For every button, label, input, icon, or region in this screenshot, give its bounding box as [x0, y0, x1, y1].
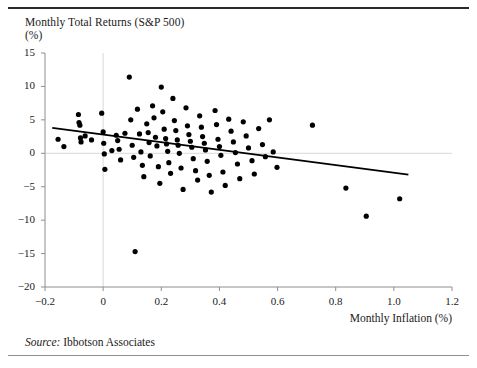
source-note: Source: Ibbotson Associates	[25, 336, 155, 348]
source-prefix: Source:	[25, 336, 60, 348]
y-tick-label: 0	[5, 147, 35, 158]
x-tick-label: 0.4	[199, 296, 239, 307]
y-tick-label: 5	[5, 114, 35, 125]
x-tick-label: −0.2	[25, 296, 65, 307]
y-tick-label: 15	[5, 47, 35, 58]
x-tick-label: 0	[83, 296, 123, 307]
y-tick-label: −5	[5, 181, 35, 192]
x-tick-label: 1.0	[374, 296, 414, 307]
x-tick-label: 0.2	[141, 296, 181, 307]
x-tick-label: 0.8	[316, 296, 356, 307]
y-tick-label: −10	[5, 214, 35, 225]
bottom-divider-rule	[8, 355, 469, 356]
y-tick-label: −15	[5, 248, 35, 259]
x-axis-title: Monthly Inflation (%)	[350, 312, 452, 324]
y-tick-label: 10	[5, 80, 35, 91]
x-tick-label: 1.2	[432, 296, 472, 307]
source-value: Ibbotson Associates	[63, 336, 155, 348]
x-tick-label: 0.6	[258, 296, 298, 307]
y-tick-label: −20	[5, 281, 35, 292]
